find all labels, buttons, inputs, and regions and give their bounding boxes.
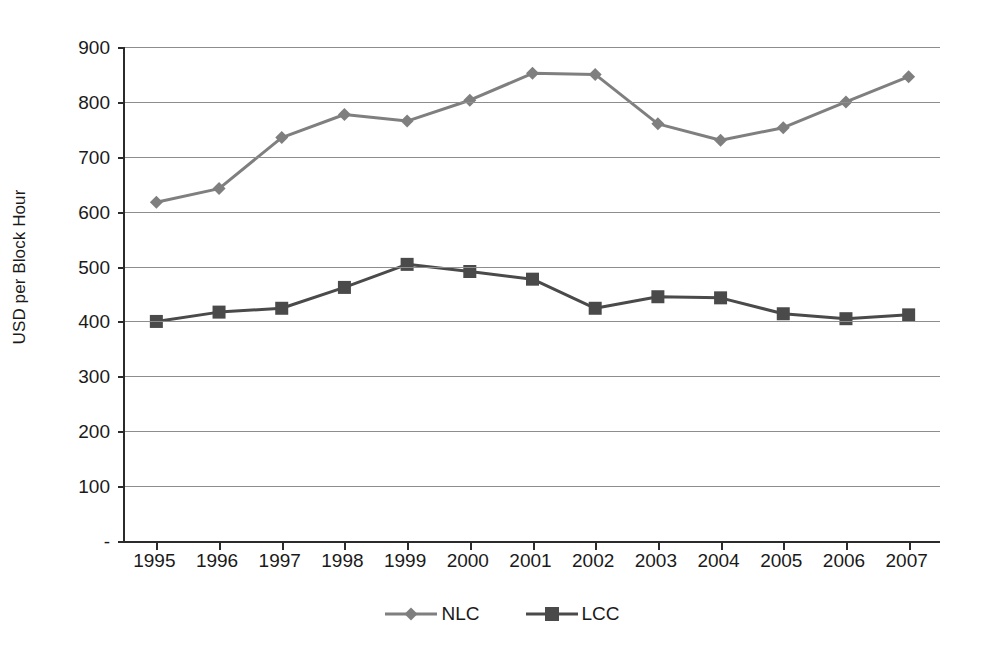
legend: NLC LCC [0, 604, 1005, 623]
y-axis-tick-label: 800 [48, 93, 110, 112]
x-axis-tick-labels: 1995199619971998199920002001200220032004… [123, 0, 938, 658]
legend-label-nlc: NLC [441, 604, 479, 623]
x-axis-tick-label: 2007 [862, 551, 952, 570]
nlc-legend-marker-icon [385, 605, 437, 623]
line-chart: USD per Block Hour -10020030040050060070… [0, 0, 1005, 658]
y-axis-tick-label: 200 [48, 422, 110, 441]
y-axis-tick-label: 900 [48, 38, 110, 57]
y-axis-tick-label: 100 [48, 477, 110, 496]
legend-item-lcc[interactable]: LCC [526, 604, 620, 623]
legend-item-nlc[interactable]: NLC [385, 604, 479, 623]
legend-label-lcc: LCC [582, 604, 620, 623]
y-axis-tick-label: 400 [48, 312, 110, 331]
y-axis-tick-label: 300 [48, 367, 110, 386]
y-axis-title: USD per Block Hour [0, 20, 40, 514]
y-axis-tick-label: - [48, 532, 110, 551]
lcc-legend-marker-icon [526, 605, 578, 623]
y-axis-tick-label: 700 [48, 148, 110, 167]
y-axis-tick-label: 600 [48, 203, 110, 222]
y-axis-tick-labels: -100200300400500600700800900 [48, 0, 110, 658]
y-axis-tick-label: 500 [48, 258, 110, 277]
